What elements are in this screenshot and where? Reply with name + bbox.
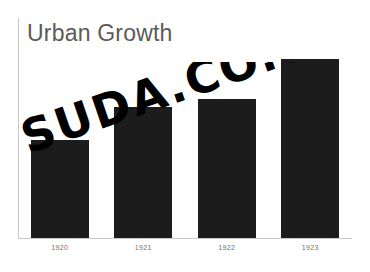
bar-1923 bbox=[281, 59, 339, 238]
x-tick-label-1921: 1921 bbox=[102, 244, 186, 251]
x-tick-label-1920: 1920 bbox=[18, 244, 102, 251]
bar-chart: Urban Growth 1920 1921 1922 1923 SUDA.CO… bbox=[0, 0, 370, 272]
x-tick-label-1922: 1922 bbox=[185, 244, 269, 251]
x-axis-line bbox=[18, 238, 352, 239]
bar-1921 bbox=[114, 107, 172, 238]
bar-1922 bbox=[198, 99, 256, 238]
bar-1920 bbox=[31, 140, 89, 238]
plot-area bbox=[18, 18, 352, 238]
x-tick-label-1923: 1923 bbox=[269, 244, 353, 251]
